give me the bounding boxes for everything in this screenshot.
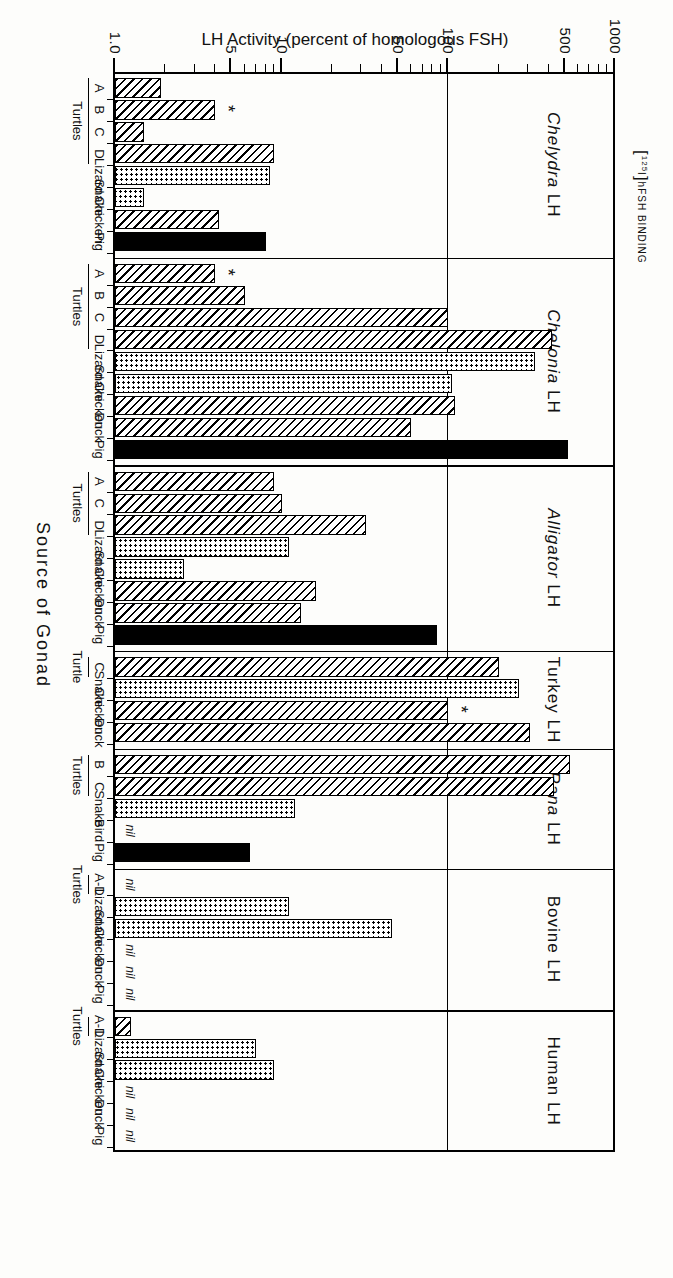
bar: [115, 308, 448, 327]
group-label: Turtle: [70, 651, 85, 684]
value-axis-minor-tick: [422, 64, 423, 72]
value-axis-minor-tick: [214, 64, 215, 72]
category-tick: [107, 939, 115, 940]
bar: [115, 625, 437, 644]
group-rule: [88, 78, 89, 163]
category-tick: [107, 1125, 115, 1126]
category-tick: [107, 231, 115, 232]
bar: [115, 100, 215, 119]
category-tick: [107, 744, 115, 745]
bar: [115, 657, 499, 676]
bar: [115, 1060, 274, 1079]
category-label: C: [92, 498, 107, 507]
nil-annotation: nil: [123, 878, 137, 890]
group-label: Turtles: [70, 756, 85, 795]
category-tick: [107, 372, 115, 373]
value-axis-tick: [446, 58, 448, 72]
category-tick: [107, 514, 115, 515]
bar: [115, 897, 289, 916]
bar: [115, 352, 535, 371]
category-tick: [107, 798, 115, 799]
category-label: Pig: [92, 843, 107, 862]
bar: [115, 210, 219, 229]
category-tick: [107, 1081, 115, 1082]
value-axis-tick-label: 1.0: [107, 10, 124, 54]
category-tick: [107, 646, 115, 647]
category-label: B: [92, 291, 107, 300]
group-rule: [88, 657, 89, 676]
value-axis-minor-tick: [548, 64, 549, 72]
nil-annotation: nil: [123, 966, 137, 978]
category-label: A: [92, 84, 107, 93]
value-axis-tick: [113, 58, 115, 72]
category-tick: [107, 121, 115, 122]
value-axis-minor-tick: [527, 64, 528, 72]
bar: [115, 374, 452, 393]
category-label: Duck: [92, 413, 107, 443]
category-tick: [107, 580, 115, 581]
value-axis-tick: [230, 58, 232, 72]
bar: [115, 919, 392, 938]
x-axis-title: Source of Gonad: [32, 522, 53, 688]
value-axis-tick-label: 1000: [607, 10, 624, 54]
category-tick: [107, 416, 115, 417]
significance-asterisk: *: [219, 105, 237, 112]
bar: [115, 679, 519, 698]
panel-separator: [115, 1010, 615, 1012]
bar: [115, 122, 144, 141]
group-label: Turtles: [70, 1007, 85, 1046]
group-rule: [88, 264, 89, 349]
group-rule: [88, 755, 89, 796]
nil-annotation: nil: [123, 944, 137, 956]
category-tick: [107, 678, 115, 679]
category-label: C: [92, 127, 107, 136]
category-label: Duck: [92, 958, 107, 988]
category-tick: [107, 307, 115, 308]
bar: [115, 1017, 131, 1036]
panel-title: Alligator LH: [543, 508, 563, 608]
value-axis-minor-tick: [255, 64, 256, 72]
bar: [115, 581, 316, 600]
value-axis-minor-tick: [440, 64, 441, 72]
category-tick: [107, 895, 115, 896]
bar: [115, 330, 552, 349]
group-label: Turtles: [70, 865, 85, 904]
reference-line-100: [447, 72, 449, 1152]
group-rule: [88, 875, 89, 894]
value-axis-line: [115, 72, 615, 74]
figure-canvas: [125I]hFSH BINDING 1000500100501051.0 Ch…: [0, 0, 673, 1278]
group-rule: [88, 1017, 89, 1036]
category-tick: [107, 776, 115, 777]
bar: [115, 515, 366, 534]
category-label: A: [92, 269, 107, 278]
bar: [115, 755, 570, 774]
value-axis-minor-tick: [273, 64, 274, 72]
category-tick: [107, 722, 115, 723]
category-label: B: [92, 760, 107, 769]
category-tick: [107, 253, 115, 254]
value-axis-minor-tick: [331, 64, 332, 72]
category-tick: [107, 700, 115, 701]
panel-title: Chelydra LH: [543, 112, 563, 218]
bar: [115, 1039, 256, 1058]
bar: [115, 799, 295, 818]
category-tick: [107, 1103, 115, 1104]
category-label: Pig: [92, 985, 107, 1004]
category-tick: [107, 842, 115, 843]
significance-asterisk: *: [452, 706, 470, 713]
value-axis-minor-tick: [606, 64, 607, 72]
bar: [115, 701, 448, 720]
bar: [115, 286, 245, 305]
category-tick: [107, 209, 115, 210]
panel-separator: [115, 651, 615, 653]
category-tick: [107, 1147, 115, 1148]
value-axis-tick: [280, 58, 282, 72]
value-axis-minor-tick: [588, 64, 589, 72]
category-tick: [107, 187, 115, 188]
category-tick: [107, 492, 115, 493]
category-tick: [107, 165, 115, 166]
category-tick: [107, 394, 115, 395]
bar: [115, 166, 270, 185]
category-tick: [107, 961, 115, 962]
fsh-binding-label: [125I]hFSH BINDING: [631, 150, 651, 264]
